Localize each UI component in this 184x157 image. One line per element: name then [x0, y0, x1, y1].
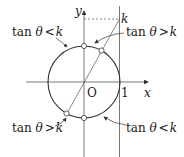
point-bottom [81, 115, 86, 120]
annotation-bottom-left: tan θ>k [12, 121, 63, 135]
annotation-top-left: tan θ<k [12, 25, 63, 39]
one-label: 1 [121, 86, 129, 100]
annotation-bottom-right: tan θ<k [126, 121, 177, 135]
y-axis-label: y [74, 4, 82, 18]
arrow-top-left [56, 38, 67, 47]
unit-circle-diagram: y x O 1 k tan θ<k tan θ>k tan θ>k tan θ<… [0, 0, 184, 157]
point-lower-left [64, 111, 69, 116]
point-top [81, 43, 86, 48]
point-upper-right [99, 48, 104, 53]
origin-label: O [87, 86, 97, 100]
x-axis-label: x [144, 86, 151, 100]
k-label: k [121, 12, 128, 26]
line-through-origin [66, 19, 120, 115]
arrow-bottom-right [104, 117, 126, 125]
annotation-top-right: tan θ>k [126, 25, 177, 39]
